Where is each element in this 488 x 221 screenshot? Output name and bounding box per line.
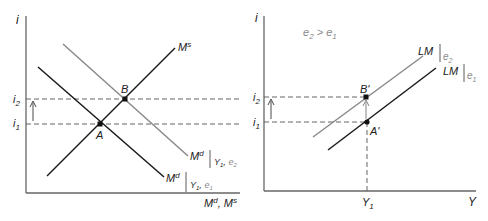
right-i1-label: i1 [253, 116, 260, 131]
point-b-prime-marker [364, 95, 369, 100]
point-b-label: B [121, 83, 128, 95]
svg-text:LM: LM [418, 45, 434, 57]
right-y1-label: Y1 [362, 196, 374, 211]
money-demand-e2-label: Md Y1, e2 [190, 149, 237, 168]
left-x-axis-label: Md, Ms [204, 196, 237, 209]
left-y-axis-label: i [16, 13, 19, 27]
left-panel-money-market: i Md, Ms i2 i1 Ms Md [13, 13, 240, 209]
point-a-prime-label: A' [369, 125, 380, 137]
point-a-marker [98, 122, 103, 127]
parameter-comparison-annotation: e2 > e1 [303, 26, 337, 41]
lm-e1-label: LM e1 [443, 64, 477, 83]
point-b-prime-label: B' [360, 83, 370, 95]
left-i2-label: i2 [13, 93, 20, 108]
money-demand-e1-label: Md Y1, e1 [166, 171, 213, 192]
shift-arrow-icon [363, 100, 369, 119]
point-a-prime-marker [364, 119, 369, 124]
right-axis-rise-arrow-icon [268, 99, 274, 119]
money-supply-curve [47, 48, 175, 176]
svg-text:Y1, e1: Y1, e1 [190, 180, 213, 191]
left-i1-label: i1 [13, 117, 20, 132]
svg-text:Md: Md [190, 149, 204, 162]
lm-curve-e1 [328, 68, 436, 150]
svg-text:e1: e1 [467, 70, 477, 83]
lm-e2-label: LM e2 [418, 44, 453, 64]
svg-text:LM: LM [443, 65, 459, 77]
right-i2-label: i2 [253, 91, 260, 106]
left-rise-arrow-icon [30, 101, 36, 121]
right-x-axis-label: Y [468, 195, 477, 209]
svg-text:Y1, e2: Y1, e2 [214, 157, 237, 168]
svg-text:Md: Md [166, 171, 180, 184]
point-a-label: A [95, 129, 103, 141]
point-b-marker [123, 97, 128, 102]
right-panel-lm: i Y e2 > e1 i2 i1 Y1 [253, 11, 477, 211]
right-y-axis-label: i [255, 11, 258, 25]
money-market-lm-diagram: i Md, Ms i2 i1 Ms Md [0, 0, 488, 221]
svg-text:e2: e2 [443, 51, 453, 64]
money-supply-label: Ms [178, 40, 191, 53]
